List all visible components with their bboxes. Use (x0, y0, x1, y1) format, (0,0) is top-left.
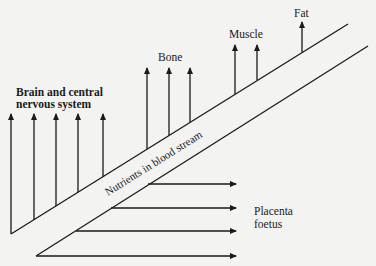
placenta-label-line1: Placenta (254, 205, 293, 217)
placenta-label-line2: foetus (254, 218, 283, 230)
stream-label: Nutrients in blood stream (103, 128, 205, 198)
brain-label-line2: nervous system (16, 98, 91, 111)
nutrient-distribution-diagram: Brain and central nervous system Bone Mu… (0, 0, 376, 266)
muscle-arrows (235, 45, 257, 94)
brain-arrows (11, 114, 103, 234)
placenta-arrows (36, 184, 236, 256)
stream-lower-edge (36, 46, 368, 256)
muscle-label: Muscle (229, 28, 263, 40)
bone-label: Bone (158, 51, 182, 63)
fat-label: Fat (294, 7, 310, 19)
brain-label-line1: Brain and central (16, 86, 103, 98)
